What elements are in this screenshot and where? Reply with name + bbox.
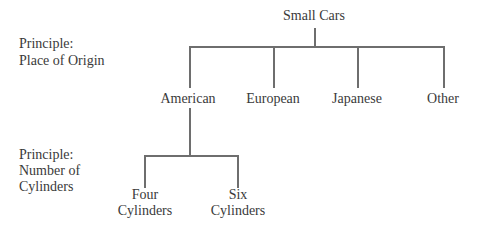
principle-label: Principle: [19,36,73,52]
node-japanese: Japanese [332,91,382,107]
node-four-cylinders-line1: Four [132,187,158,203]
root-node: Small Cars [283,8,345,24]
connector [189,46,191,88]
connector [189,46,443,48]
node-four-cylinders-line2: Cylinders [118,203,172,219]
connector [273,46,275,88]
node-european: European [246,91,300,107]
node-six-cylinders-line2: Cylinders [211,203,265,219]
connector [189,108,191,155]
node-other: Other [427,91,459,107]
principle-value: Cylinders [19,179,73,195]
connector [144,155,237,157]
principle-label: Principle: [19,147,73,163]
principle-value: Place of Origin [19,53,105,69]
connector [237,155,239,188]
connector [144,155,146,188]
node-six-cylinders-line1: Six [229,187,248,203]
connector [357,46,359,88]
node-american: American [160,91,215,107]
connector [443,46,445,88]
connector [314,28,316,46]
principle-value: Number of [19,163,80,179]
